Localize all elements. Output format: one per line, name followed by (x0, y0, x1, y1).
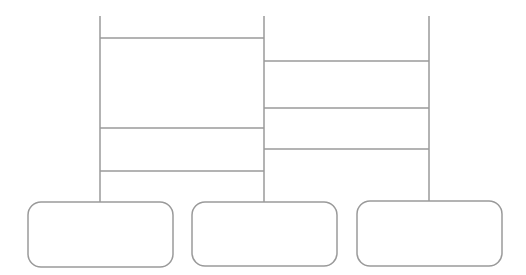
result-box-label-3 (357, 201, 502, 266)
result-box-label-2 (192, 202, 337, 266)
result-box-label-1 (28, 202, 173, 267)
vertical-lines (100, 16, 429, 202)
